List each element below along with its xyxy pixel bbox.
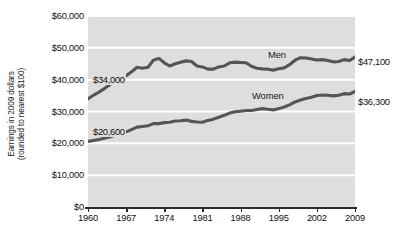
- series-label-women: Women: [252, 90, 284, 101]
- line-series-men: [88, 57, 355, 99]
- start-value-label-men: $34,000: [92, 74, 126, 85]
- x-tick-1967: [126, 207, 127, 212]
- x-tick-1988: [241, 207, 242, 212]
- y-axis-title: Earnings in 2009 dollars (rounded to nea…: [7, 19, 27, 209]
- x-tick-1981: [202, 207, 203, 212]
- y-axis-title-line1: Earnings in 2009 dollars: [7, 19, 17, 209]
- y-tick-label-10000: $10,000: [28, 170, 84, 180]
- y-tick-label-40000: $40,000: [28, 75, 84, 85]
- y-tick-label-30000: $30,000: [28, 107, 84, 117]
- y-axis-tick-labels: $0$10,000$20,000$30,000$40,000$50,000$60…: [26, 0, 84, 243]
- line-series-women: [88, 91, 355, 141]
- end-value-label-men: $47,100: [358, 56, 390, 67]
- x-tick-2009: [355, 207, 356, 212]
- y-tick-label-60000: $60,000: [28, 11, 84, 21]
- y-tick-label-50000: $50,000: [28, 43, 84, 53]
- y-tick-label-0: $0: [28, 202, 84, 212]
- earnings-line-chart: Earnings in 2009 dollars (rounded to nea…: [0, 0, 413, 243]
- x-tick-1995: [279, 207, 280, 212]
- x-tick-1974: [164, 207, 165, 212]
- end-value-label-women: $36,300: [358, 96, 390, 107]
- plot-area: [88, 16, 355, 207]
- x-tick-1960: [88, 207, 89, 212]
- x-tick-2002: [317, 207, 318, 212]
- x-tick-label-2009: 2009: [332, 213, 378, 223]
- series-lines: [88, 16, 355, 207]
- y-tick-label-20000: $20,000: [28, 138, 84, 148]
- start-value-label-women: $20,600: [92, 126, 126, 137]
- series-label-men: Men: [268, 49, 286, 60]
